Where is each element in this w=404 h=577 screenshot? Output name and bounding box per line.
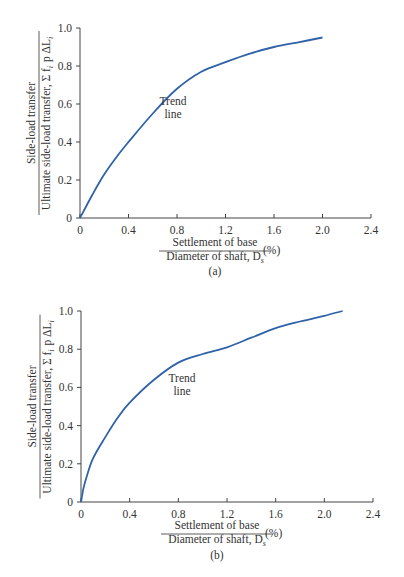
trend-annotation-line2: line bbox=[164, 108, 181, 120]
chart-caption: (a) bbox=[209, 265, 222, 278]
x-tick-label: 0.4 bbox=[122, 508, 137, 520]
y-tick-label: 0.2 bbox=[58, 174, 73, 186]
y-tick-label: 0.2 bbox=[59, 458, 74, 470]
y-label-numerator: Side-load transfer bbox=[25, 82, 37, 164]
x-tick-label: 0 bbox=[78, 508, 84, 520]
x-tick-label: 0.8 bbox=[170, 224, 185, 236]
y-label-numerator: Side-load transfer bbox=[26, 365, 38, 447]
y-axis: 00.20.40.60.81.0 bbox=[58, 22, 80, 224]
y-tick-label: 0.8 bbox=[59, 343, 74, 355]
x-tick-label: 1.6 bbox=[267, 224, 282, 236]
x-tick-label: 2.4 bbox=[366, 508, 381, 520]
figure: 00.20.40.60.81.0 00.40.81.21.62.02.4 Tre… bbox=[0, 0, 404, 577]
x-label-unit: (%) bbox=[263, 244, 280, 257]
x-tick-label: 2.0 bbox=[317, 508, 332, 520]
y-tick-label: 1.0 bbox=[59, 305, 74, 317]
y-tick-label: 0.6 bbox=[59, 381, 74, 393]
trend-line-curve bbox=[81, 311, 343, 502]
x-axis-label: Settlement of base Diameter of shaft, Ds… bbox=[161, 519, 282, 548]
x-tick-label: 1.2 bbox=[218, 224, 233, 236]
x-label-numerator: Settlement of base bbox=[173, 236, 258, 248]
x-tick-label: 2.4 bbox=[364, 224, 379, 236]
y-tick-label: 0.4 bbox=[58, 136, 73, 148]
x-tick-label: 0.4 bbox=[121, 224, 136, 236]
x-axis: 00.40.81.21.62.02.4 bbox=[78, 498, 380, 520]
x-tick-label: 2.0 bbox=[315, 224, 330, 236]
x-label-numerator: Settlement of base bbox=[175, 519, 260, 531]
chart-a: 00.20.40.60.81.0 00.40.81.21.62.02.4 Tre… bbox=[25, 22, 378, 278]
y-axis: 00.20.40.60.81.0 bbox=[59, 305, 81, 508]
y-tick-label: 0.6 bbox=[58, 98, 73, 110]
trend-line-curve bbox=[80, 38, 323, 219]
trend-annotation-line1: Trend bbox=[168, 372, 195, 384]
y-tick-label: 0 bbox=[66, 212, 72, 224]
chart-caption: (b) bbox=[210, 549, 224, 562]
x-tick-label: 1.6 bbox=[268, 508, 283, 520]
x-label-denominator: Diameter of shaft, Ds bbox=[168, 533, 266, 548]
chart-b: 00.20.40.60.81.0 00.40.81.21.62.02.4 Tre… bbox=[26, 305, 380, 562]
trend-annotation-line1: Trend bbox=[159, 95, 186, 107]
y-label-denominator: Ultimate side-load transfer, Σ fi p ΔLi bbox=[41, 319, 56, 493]
y-tick-label: 1.0 bbox=[58, 22, 73, 34]
x-label-denominator: Diameter of shaft, Ds bbox=[166, 250, 264, 265]
y-tick-label: 0 bbox=[67, 496, 73, 508]
y-axis-label: Side-load transfer Ultimate side-load tr… bbox=[26, 315, 56, 499]
x-axis-label: Settlement of base Diameter of shaft, Ds… bbox=[159, 236, 280, 265]
y-axis-label: Side-load transfer Ultimate side-load tr… bbox=[25, 31, 55, 215]
y-tick-label: 0.4 bbox=[59, 420, 74, 432]
x-label-unit: (%) bbox=[265, 527, 282, 540]
x-tick-label: 0 bbox=[77, 224, 83, 236]
y-tick-label: 0.8 bbox=[58, 60, 73, 72]
trend-annotation-line2: line bbox=[173, 385, 190, 397]
y-label-denominator: Ultimate side-load transfer, Σ fi p ΔLi bbox=[40, 36, 55, 210]
x-axis: 00.40.81.21.62.02.4 bbox=[77, 214, 378, 236]
